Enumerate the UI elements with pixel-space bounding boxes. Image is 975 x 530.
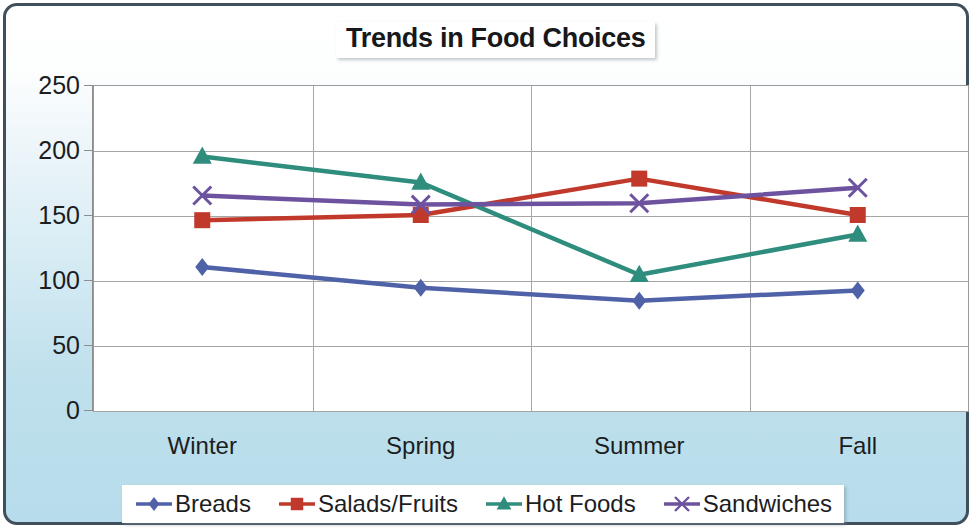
legend-item-label: Hot Foods [525,492,636,516]
legend-item-hot-foods[interactable]: Hot Foods [484,492,636,516]
chart-container: Trends in Food Choices 250200150100500 W… [0,0,975,530]
data-point-marker [195,258,209,276]
series-line [202,267,858,301]
data-point-marker [632,292,646,310]
legend-item-label: Breads [175,492,251,516]
data-point-marker [851,281,865,299]
data-point-marker [848,225,867,242]
legend-item-label: Sandwiches [703,492,832,516]
chart-legend: BreadsSalads/FruitsHot FoodsSandwiches [122,485,844,523]
series-hot-foods [193,147,868,283]
triangle-marker-icon [484,493,524,515]
legend-item-breads[interactable]: Breads [134,492,251,516]
diamond-marker-icon [134,493,174,515]
x-marker-icon [662,493,702,515]
data-point-marker [631,171,647,187]
legend-item-salads-fruits[interactable]: Salads/Fruits [277,492,458,516]
data-point-marker [194,212,210,228]
square-marker-icon [277,493,317,515]
legend-item-label: Salads/Fruits [318,492,458,516]
data-point-marker [414,279,428,297]
series-layer [0,0,975,530]
series-breads [195,258,865,310]
legend-item-sandwiches[interactable]: Sandwiches [662,492,832,516]
data-point-marker [850,207,866,223]
